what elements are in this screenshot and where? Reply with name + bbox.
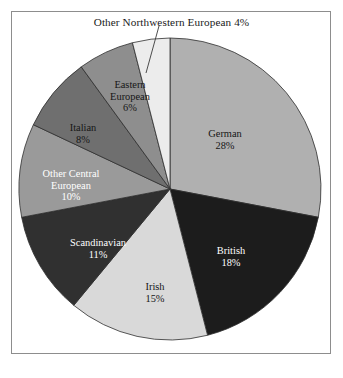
- pie-chart-page: Other Northwestern European 4% German 28…: [0, 0, 343, 378]
- pie-slice-german[interactable]: [170, 38, 321, 217]
- pie-chart: [11, 11, 331, 354]
